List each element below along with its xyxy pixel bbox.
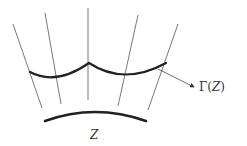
pointer-arrow — [158, 69, 194, 87]
diagram-canvas — [0, 0, 247, 146]
gamma-curve — [30, 63, 166, 77]
rays — [13, 8, 178, 110]
ray-1 — [13, 24, 42, 108]
gamma-z-label: Γ(Z) — [199, 80, 225, 94]
ray-5 — [148, 24, 178, 110]
ray-4 — [118, 15, 138, 106]
base-curve-label: Z — [90, 128, 98, 142]
gamma-suffix: ) — [220, 80, 225, 94]
gamma-prefix: Γ( — [199, 80, 212, 94]
base-arc — [45, 112, 146, 121]
ray-2 — [45, 13, 61, 104]
